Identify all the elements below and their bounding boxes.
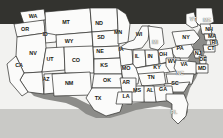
state-label-nm[interactable]: NM [65, 81, 73, 86]
state-label-al[interactable]: AL [147, 88, 154, 93]
state-label-sd[interactable]: SD [97, 35, 104, 40]
state-label-ny[interactable]: NY [182, 35, 189, 40]
state-label-ia[interactable]: IA [118, 47, 123, 52]
us-map-screenshot: WAORIDMTNDSDMNWIWYNVUTCACONEIAKSMOILINMI… [0, 0, 223, 138]
state-label-ok[interactable]: OK [103, 78, 111, 83]
state-label-nc[interactable]: NC [176, 71, 184, 76]
state-label-md[interactable]: MD [198, 66, 206, 71]
state-label-mo[interactable]: MO [122, 66, 130, 71]
state-label-wv[interactable]: WV [168, 59, 176, 64]
state-label-ms[interactable]: MS [133, 88, 141, 93]
state-label-tn[interactable]: TN [148, 75, 155, 80]
state-label-me[interactable]: ME [203, 18, 211, 23]
state-label-mt[interactable]: MT [62, 20, 70, 25]
state-label-co[interactable]: CO [72, 58, 80, 63]
state-label-id[interactable]: ID [42, 32, 47, 37]
state-label-ne[interactable]: NE [96, 49, 103, 54]
state-label-az[interactable]: AZ [43, 77, 50, 82]
state-label-wa[interactable]: WA [29, 14, 37, 19]
state-label-in[interactable]: IN [147, 54, 152, 59]
state-label-va[interactable]: VA [181, 62, 188, 67]
state-label-oh[interactable]: OH [159, 52, 167, 57]
state-label-pa[interactable]: PA [177, 46, 184, 51]
state-label-ar[interactable]: AR [122, 80, 130, 85]
state-label-ky[interactable]: KY [153, 65, 160, 70]
state-label-il[interactable]: IL [135, 54, 140, 59]
state-label-mi[interactable]: MI [152, 40, 158, 45]
state-label-de[interactable]: DE [199, 57, 206, 62]
state-label-nh[interactable]: NH [205, 27, 213, 32]
state-label-wi[interactable]: WI [136, 32, 142, 37]
state-label-ca[interactable]: CA [15, 63, 23, 68]
state-label-fl[interactable]: FL [171, 110, 177, 115]
state-label-la[interactable]: LA [123, 94, 130, 99]
state-label-sc[interactable]: SC [171, 81, 178, 86]
state-label-ga[interactable]: GA [159, 87, 167, 92]
state-label-ut[interactable]: UT [47, 57, 54, 62]
state-label-or[interactable]: OR [21, 27, 29, 32]
state-label-nv[interactable]: NV [29, 51, 36, 56]
state-label-nd[interactable]: ND [95, 21, 103, 26]
state-label-mn[interactable]: MN [114, 30, 122, 35]
state-label-ks[interactable]: KS [100, 63, 107, 68]
state-label-ct[interactable]: CT [208, 46, 215, 51]
state-label-vt[interactable]: VT [190, 17, 197, 22]
state-label-tx[interactable]: TX [95, 96, 102, 101]
state-label-wy[interactable]: WY [65, 39, 73, 44]
